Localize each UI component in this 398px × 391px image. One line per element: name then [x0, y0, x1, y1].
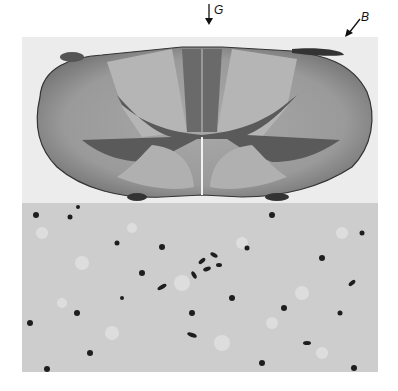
arrow-down-icon: [204, 4, 214, 26]
micrograph-panel: [22, 203, 378, 372]
spinal-cord-section-image: [22, 37, 378, 203]
label-b: B: [361, 10, 369, 24]
micrograph-image: [22, 203, 378, 372]
spinal-cord-panel: [22, 37, 378, 203]
arrow-diagonal-icon: [344, 18, 362, 38]
label-g: G: [214, 3, 223, 17]
